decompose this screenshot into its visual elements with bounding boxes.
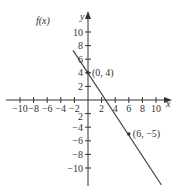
y-tick-label: 8 [78,40,83,51]
y-axis-label: y [79,11,85,22]
point-label: (0, 4) [92,67,114,79]
y-tick-label: 2 [78,111,83,122]
x-tick-label: −6 [42,103,53,114]
labeled-points: (0, 4)(6, −5) [86,67,160,140]
function-line [73,50,161,185]
point-marker [86,71,90,75]
y-tick-label: −6 [72,135,83,146]
y-tick-label: −4 [72,122,83,133]
x-tick-label: −8 [28,103,39,114]
function-line-path [73,50,161,185]
x-tick-label: −10 [12,103,28,114]
y-tick-label: −10 [67,163,83,174]
x-tick-label: 10 [151,103,161,114]
point-marker [127,132,131,136]
x-axis-label: x [165,98,171,109]
point-label: (6, −5) [133,128,160,140]
y-tick-label: 2 [78,81,83,92]
function-label: f(x) [36,15,51,27]
plot-svg: −10−8−6−4−2246810−10−8−6−42246810 (0, 4)… [0,0,177,192]
x-tick-label: 6 [126,103,131,114]
x-tick-label: 2 [99,103,104,114]
axes [6,11,172,186]
y-axis-arrow-icon [85,11,91,19]
y-tick-label: 10 [73,27,83,38]
y-tick-label: 4 [78,67,83,78]
coordinate-plane: −10−8−6−4−2246810−10−8−6−42246810 (0, 4)… [0,0,177,192]
x-tick-label: −4 [55,103,66,114]
y-tick-label: −8 [72,149,83,160]
x-tick-label: 8 [140,103,145,114]
